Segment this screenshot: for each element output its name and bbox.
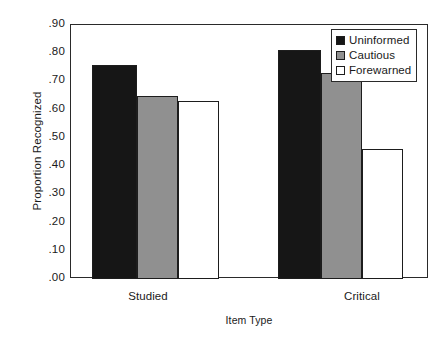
y-tick-label: .60 <box>25 103 65 115</box>
legend-label: Forewarned <box>349 65 411 77</box>
y-tick-label: .30 <box>25 188 65 200</box>
bar-studied-cautious <box>137 96 178 279</box>
y-tick-label: .90 <box>25 18 65 30</box>
bar-critical-forewarned <box>362 149 403 279</box>
x-tick-label: Studied <box>78 290 218 302</box>
y-axis-title: Proportion Recognized <box>31 36 43 266</box>
y-tick-label: .10 <box>25 244 65 256</box>
bar-critical-cautious <box>321 73 362 279</box>
bar-studied-forewarned <box>178 101 219 279</box>
legend-label: Uninformed <box>349 35 409 47</box>
black-square-swatch <box>336 36 345 45</box>
y-tick-label: .00 <box>25 272 65 284</box>
legend-item: Cautious <box>336 48 411 63</box>
legend-item: Forewarned <box>336 63 411 78</box>
bar-critical-uninformed <box>278 50 321 279</box>
gray-square-swatch <box>336 51 345 60</box>
y-tick-label: .50 <box>25 131 65 143</box>
chart-legend: UninformedCautiousForewarned <box>331 29 417 82</box>
y-tick-label: .20 <box>25 216 65 228</box>
bar-chart-figure: Proportion Recognized .90.80.70.60.50.40… <box>0 0 446 338</box>
y-tick-label: .40 <box>25 159 65 171</box>
x-axis-title: Item Type <box>70 314 428 326</box>
legend-item: Uninformed <box>336 33 411 48</box>
x-tick-label: Critical <box>292 290 432 302</box>
bar-studied-uninformed <box>92 65 137 279</box>
white-square-swatch <box>336 66 345 75</box>
legend-label: Cautious <box>349 50 395 62</box>
y-tick-label: .70 <box>25 75 65 87</box>
y-tick-label: .80 <box>25 46 65 58</box>
